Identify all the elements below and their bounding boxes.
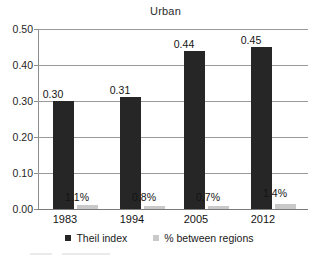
data-label-theil-index-1983: 0.30 bbox=[33, 89, 73, 100]
bar-pct-between-regions-2005[interactable] bbox=[208, 206, 229, 209]
bar-pct-between-regions-1983[interactable] bbox=[77, 205, 98, 209]
y-tick-label-020: 0.20 bbox=[1, 132, 33, 143]
scan-artifact-left bbox=[30, 253, 52, 255]
x-tick-label-1994: 1994 bbox=[102, 213, 162, 225]
data-label-pct-between-regions-2012: 1.4% bbox=[255, 188, 295, 199]
legend-label-pct-between-regions: % between regions bbox=[164, 232, 253, 244]
chart-legend: Theil index % between regions bbox=[0, 232, 319, 244]
legend-item-theil-index[interactable]: Theil index bbox=[65, 232, 127, 244]
urban-bar-chart: Urban 0.50 0.40 0.30 0.20 0.10 0.00 bbox=[0, 0, 319, 261]
y-tick-label-000: 0.00 bbox=[1, 204, 33, 215]
legend-label-theil-index: Theil index bbox=[76, 232, 127, 244]
x-tick-label-2012: 2012 bbox=[233, 213, 293, 225]
data-label-pct-between-regions-2005: 0.7% bbox=[188, 192, 228, 203]
chart-title-text: Urban bbox=[150, 5, 181, 17]
legend-item-pct-between-regions[interactable]: % between regions bbox=[153, 232, 253, 244]
x-tick-label-1983: 1983 bbox=[35, 213, 95, 225]
gridline-050 bbox=[38, 29, 308, 30]
data-label-pct-between-regions-1983: 1.1% bbox=[57, 192, 97, 203]
data-label-theil-index-2012: 0.45 bbox=[231, 35, 271, 46]
x-tick-label-2005: 2005 bbox=[166, 213, 226, 225]
data-label-theil-index-1994: 0.31 bbox=[100, 85, 140, 96]
dark-square-marker-icon bbox=[65, 235, 71, 241]
y-tick-label-030: 0.30 bbox=[1, 96, 33, 107]
gridline-000-baseline bbox=[38, 209, 308, 210]
data-label-pct-between-regions-1994: 0.8% bbox=[124, 192, 164, 203]
bar-pct-between-regions-2012[interactable] bbox=[275, 204, 296, 209]
bar-theil-index-2005[interactable] bbox=[184, 51, 205, 209]
bar-pct-between-regions-1994[interactable] bbox=[144, 206, 165, 209]
chart-title: Urban bbox=[0, 5, 319, 17]
y-tick-label-040: 0.40 bbox=[1, 60, 33, 71]
y-tick-label-010: 0.10 bbox=[1, 168, 33, 179]
y-axis-labels: 0.50 0.40 0.30 0.20 0.10 0.00 bbox=[0, 0, 33, 261]
data-label-theil-index-2005: 0.44 bbox=[164, 39, 204, 50]
y-tick-label-050: 0.50 bbox=[1, 24, 33, 35]
bar-theil-index-2012[interactable] bbox=[251, 47, 272, 209]
scan-artifact-mid bbox=[62, 253, 110, 255]
plot-area bbox=[38, 29, 308, 209]
light-square-marker-icon bbox=[153, 235, 159, 241]
